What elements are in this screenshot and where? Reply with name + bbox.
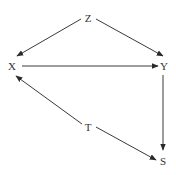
causal-diagram: Z X Y T S xyxy=(0,0,176,175)
node-y: Y xyxy=(160,60,168,72)
edge-t-to-x xyxy=(16,76,82,124)
node-s: S xyxy=(160,155,166,167)
edge-t-to-s xyxy=(96,127,156,160)
edge-z-to-y xyxy=(96,19,163,56)
node-x: X xyxy=(8,60,16,72)
edge-z-to-x xyxy=(17,19,81,56)
node-z: Z xyxy=(85,12,92,24)
node-t: T xyxy=(85,121,92,133)
